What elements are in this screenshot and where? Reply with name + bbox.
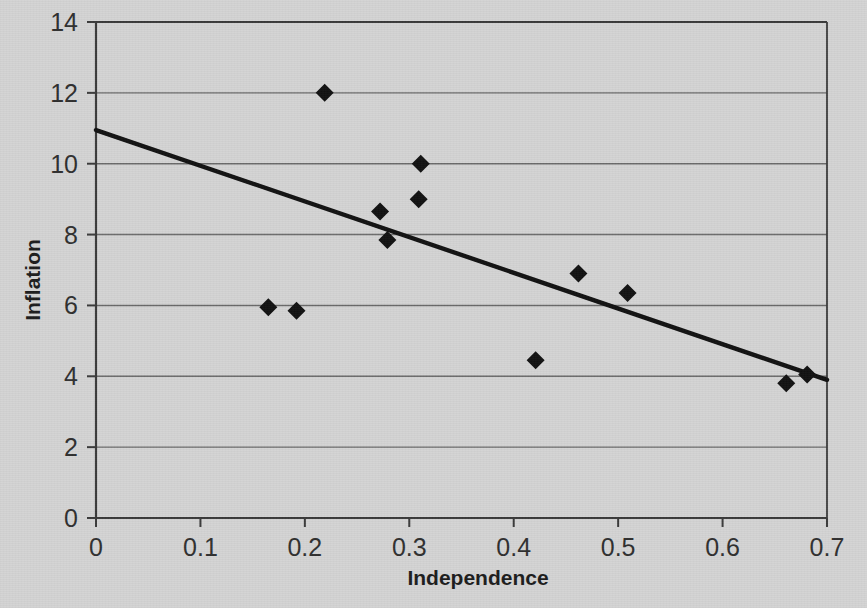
scatter-chart: 02468101214 00.10.20.30.40.50.60.7 Indep… — [0, 0, 867, 608]
x-axis-title: Independence — [407, 566, 548, 589]
x-tick-label-0-7: 0.7 — [810, 533, 845, 561]
x-tick-label-0-2: 0.2 — [287, 533, 322, 561]
chart-background — [0, 0, 867, 608]
y-tick-label-0: 0 — [64, 504, 78, 532]
y-tick-label-8: 8 — [64, 221, 78, 249]
y-tick-label-14: 14 — [50, 8, 78, 36]
y-tick-label-12: 12 — [50, 79, 78, 107]
y-tick-label-10: 10 — [50, 150, 78, 178]
x-tick-label-0-5: 0.5 — [601, 533, 636, 561]
y-tick-label-6: 6 — [64, 291, 78, 319]
y-axis-title: Inflation — [21, 239, 44, 321]
y-tick-label-4: 4 — [64, 362, 78, 390]
chart-canvas: 02468101214 00.10.20.30.40.50.60.7 Indep… — [0, 0, 867, 608]
x-tick-label-0-3: 0.3 — [392, 533, 427, 561]
x-tick-label-0-6: 0.6 — [705, 533, 740, 561]
y-tick-label-2: 2 — [64, 433, 78, 461]
x-tick-label-0: 0 — [89, 533, 103, 561]
x-tick-label-0-1: 0.1 — [183, 533, 218, 561]
x-tick-label-0-4: 0.4 — [496, 533, 531, 561]
